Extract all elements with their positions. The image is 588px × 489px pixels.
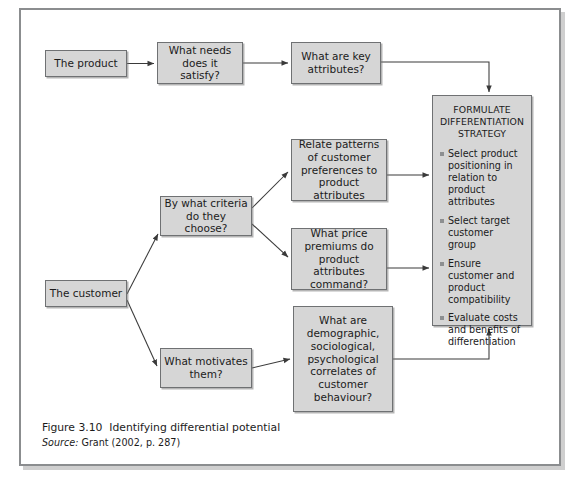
node-what-needs-label: What needs does it satisfy?	[158, 44, 242, 82]
node-the-customer-label: The customer	[47, 287, 125, 300]
wire-customer-to-motivates	[127, 300, 157, 366]
panel-bullet-label: Evaluate costs and benefits of different…	[448, 312, 524, 348]
node-what-needs-does-it-satisfy[interactable]: What needs does it satisfy?	[157, 42, 243, 84]
node-motivates-label: What motivates them?	[161, 355, 251, 381]
node-relate-patterns-label: Relate patterns of customer preferences …	[292, 138, 386, 202]
wire-motivates-to-demographic	[252, 359, 290, 368]
node-price-premiums-label: What price premiums do product attribute…	[292, 227, 386, 291]
figure-caption-block: Figure 3.10 Identifying differential pot…	[42, 421, 462, 448]
figure-page: The product What needs does it satisfy? …	[0, 0, 588, 489]
node-key-attributes-label: What are key attributes?	[292, 50, 380, 76]
source-label: Source:	[42, 437, 78, 448]
panel-bullet-label: Select target customer group	[448, 215, 524, 251]
wire-criteria-to-relate	[252, 172, 288, 208]
panel-title-line-3: STRATEGY	[440, 128, 524, 140]
panel-bullet-label: Select product positioning in relation t…	[448, 148, 524, 208]
node-by-what-criteria-do-they-choose[interactable]: By what criteria do they choose?	[160, 196, 252, 236]
square-bullet-icon	[440, 262, 444, 266]
figure-caption: Figure 3.10 Identifying differential pot…	[42, 421, 462, 434]
node-what-are-key-attributes[interactable]: What are key attributes?	[291, 42, 381, 84]
square-bullet-icon	[440, 152, 444, 156]
node-criteria-label: By what criteria do they choose?	[161, 197, 251, 235]
node-what-price-premiums[interactable]: What price premiums do product attribute…	[291, 228, 387, 290]
node-what-motivates-them[interactable]: What motivates them?	[160, 348, 252, 388]
wire-customer-to-criteria	[127, 234, 158, 294]
node-what-are-demographic-correlates[interactable]: What are demographic, sociological, psyc…	[293, 306, 393, 412]
list-item: Evaluate costs and benefits of different…	[440, 312, 524, 348]
node-the-customer[interactable]: The customer	[45, 280, 127, 307]
node-the-product-label: The product	[51, 57, 120, 70]
wire-keyattrs-to-panel	[381, 62, 489, 92]
panel-formulate-differentiation-strategy[interactable]: FORMULATE DIFFERENTIATION STRATEGY Selec…	[432, 95, 532, 326]
figure-source-line: Source: Grant (2002, p. 287)	[42, 437, 462, 448]
square-bullet-icon	[440, 316, 444, 320]
panel-title-line-2: DIFFERENTIATION	[440, 116, 524, 128]
panel-title-line-1: FORMULATE	[440, 104, 524, 116]
figure-number: Figure 3.10	[42, 421, 102, 434]
source-citation: Grant (2002, p. 287)	[81, 437, 180, 448]
wire-criteria-to-premiums	[252, 224, 288, 257]
list-item: Ensure customer and product compatibilit…	[440, 258, 524, 306]
square-bullet-icon	[440, 219, 444, 223]
node-demographic-label: What are demographic, sociological, psyc…	[294, 314, 392, 404]
node-the-product[interactable]: The product	[45, 50, 127, 77]
node-relate-patterns-of-customer-preferences[interactable]: Relate patterns of customer preferences …	[291, 139, 387, 201]
list-item: Select product positioning in relation t…	[440, 148, 524, 208]
panel-title: FORMULATE DIFFERENTIATION STRATEGY	[440, 104, 524, 140]
figure-title: Identifying differential potential	[109, 421, 280, 434]
panel-bullet-label: Ensure customer and product compatibilit…	[448, 258, 524, 306]
list-item: Select target customer group	[440, 215, 524, 251]
